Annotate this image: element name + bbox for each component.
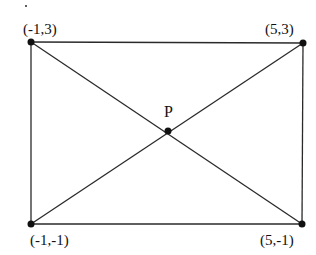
vertex-top-right-point	[300, 40, 307, 47]
stray-dot	[25, 5, 27, 7]
vertex-label-bottom-right: (5,-1)	[260, 233, 294, 248]
rectangle-diagram	[0, 0, 316, 255]
vertex-label-top-right: (5,3)	[265, 22, 294, 37]
edge-right	[302, 43, 303, 224]
vertex-top-left-point	[28, 39, 35, 46]
vertex-bottom-right-point	[299, 221, 306, 228]
diagram-canvas: (-1,3) (5,3) (-1,-1) (5,-1) P	[0, 0, 316, 255]
intersection-point-p	[165, 128, 172, 135]
intersection-label-p: P	[164, 104, 173, 120]
vertex-bottom-left-point	[28, 221, 35, 228]
vertex-label-top-left: (-1,3)	[23, 22, 57, 37]
edge-top	[31, 42, 303, 43]
vertex-label-bottom-left: (-1,-1)	[30, 233, 69, 248]
